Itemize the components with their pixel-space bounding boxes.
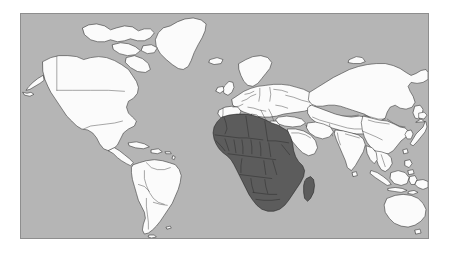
region-tasmania bbox=[415, 229, 421, 234]
world-map-canvas bbox=[21, 14, 428, 238]
region-taiwan bbox=[403, 149, 408, 154]
region-puerto-rico bbox=[165, 152, 171, 154]
region-sri-lanka bbox=[352, 172, 357, 177]
map-frame bbox=[20, 13, 429, 239]
world-map-figure bbox=[0, 0, 449, 254]
region-philippines-south bbox=[408, 170, 414, 175]
